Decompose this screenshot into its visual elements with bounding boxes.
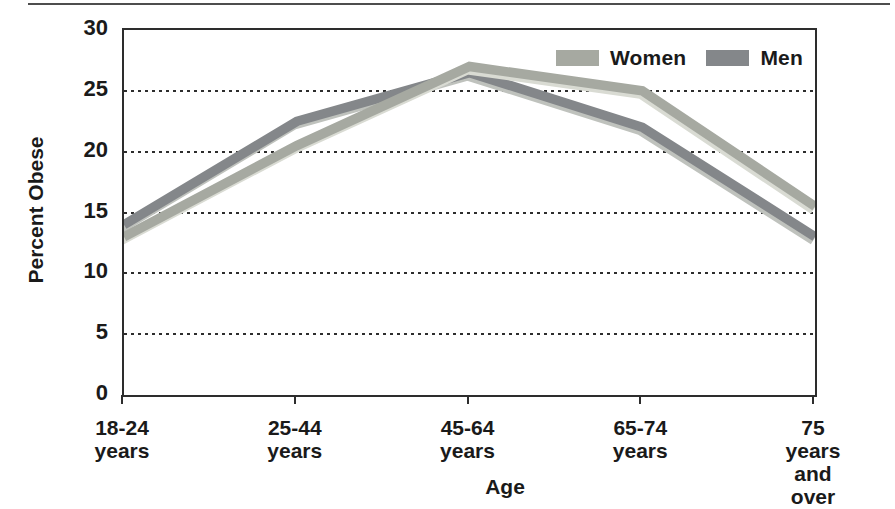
women-line-halo	[124, 71, 813, 241]
x-category-label: 45-64 years	[440, 416, 495, 462]
x-tick-mark	[467, 395, 469, 404]
y-tick-label-15: 15	[0, 198, 108, 224]
line-series-svg	[124, 30, 815, 395]
x-tick-mark	[121, 395, 123, 404]
women-line	[124, 67, 815, 237]
obesity-by-age-chart: Percent Obese WomenMen 051015202530 18-2…	[0, 0, 895, 509]
y-tick-label-25: 25	[0, 76, 108, 102]
x-tick-mark	[812, 395, 814, 404]
legend-item-women: Women	[556, 46, 686, 70]
scan-border-artifact	[28, 3, 890, 5]
women-swatch	[556, 50, 599, 66]
y-tick-label-30: 30	[0, 15, 108, 41]
men-swatch	[706, 50, 749, 66]
y-tick-label-5: 5	[0, 319, 108, 345]
plot-area: WomenMen	[122, 28, 817, 397]
x-category-label: 25-44 years	[267, 416, 322, 462]
y-tick-label-10: 10	[0, 258, 108, 284]
x-axis-title: Age	[485, 475, 525, 499]
y-tick-label-0: 0	[0, 380, 108, 406]
x-category-label: 75 years and over	[772, 416, 854, 508]
legend: WomenMen	[556, 46, 803, 70]
y-tick-label-20: 20	[0, 137, 108, 163]
x-category-label: 18-24 years	[95, 416, 150, 462]
legend-label-women: Women	[610, 46, 686, 70]
x-tick-mark	[294, 395, 296, 404]
x-tick-mark	[639, 395, 641, 404]
x-category-label: 65-74 years	[613, 416, 668, 462]
legend-item-men: Men	[706, 46, 803, 70]
men-line	[124, 73, 815, 237]
legend-label-men: Men	[760, 46, 803, 70]
